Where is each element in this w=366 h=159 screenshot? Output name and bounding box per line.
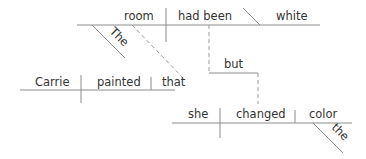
word-color: color xyxy=(309,107,338,121)
word-painted: painted xyxy=(97,75,141,89)
word-the: the xyxy=(329,120,352,143)
word-The: The xyxy=(106,24,132,50)
word-but: but xyxy=(224,57,244,71)
word-Carrie: Carrie xyxy=(35,75,70,89)
word-white: white xyxy=(276,9,307,23)
complement-slash xyxy=(243,8,260,25)
word-changed: changed xyxy=(236,107,286,121)
clause-connector xyxy=(132,25,185,80)
word-she: she xyxy=(188,107,208,121)
sentence-diagram: room had been white The Carrie painted t… xyxy=(0,0,366,159)
word-room: room xyxy=(124,9,154,23)
word-that: that xyxy=(162,75,186,89)
word-had-been: had been xyxy=(178,9,232,23)
